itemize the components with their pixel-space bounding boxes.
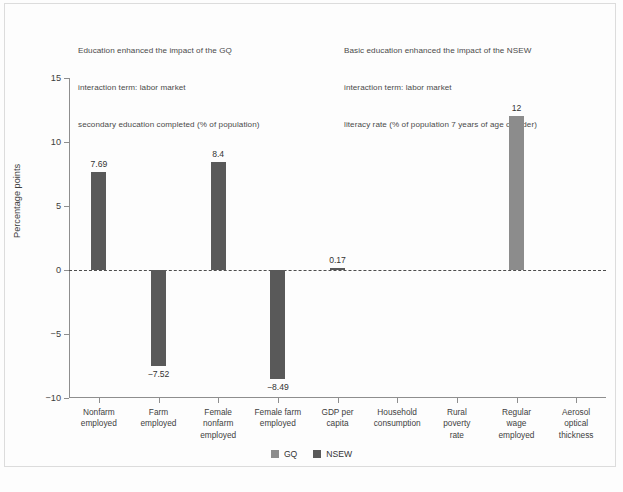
- legend-item-gq[interactable]: GQ: [271, 449, 297, 459]
- x-category-label-line: optical: [545, 418, 607, 429]
- x-category-label-line: consumption: [366, 418, 428, 429]
- y-tick-label: 5: [56, 201, 61, 211]
- x-category-label-line: poverty: [426, 418, 488, 429]
- x-category-label-line: Female: [187, 407, 249, 418]
- y-axis-line: [69, 78, 70, 398]
- annotation-note-nsew-line-1: Basic education enhanced the impact of t…: [344, 45, 537, 57]
- y-tick-label: −5: [51, 329, 61, 339]
- y-tick-label: 10: [51, 137, 61, 147]
- x-category-label-line: Aerosol: [545, 407, 607, 418]
- x-category-label-3: Female farmemployed: [247, 407, 309, 430]
- bar-nsew-1[interactable]: [151, 270, 166, 366]
- x-category-label-line: Farm: [128, 407, 190, 418]
- x-category-label-line: Rural: [426, 407, 488, 418]
- x-category-label-line: GDP per: [307, 407, 369, 418]
- x-tick-mark: [218, 398, 219, 403]
- x-tick-mark: [457, 398, 458, 403]
- x-tick-mark: [397, 398, 398, 403]
- y-axis-label: Percentage points: [12, 164, 22, 238]
- y-tick-mark: [64, 78, 69, 79]
- x-category-label-line: nonfarm: [187, 418, 249, 429]
- x-tick-mark: [278, 398, 279, 403]
- chart-legend: GQNSEW: [0, 449, 623, 459]
- x-category-label-line: employed: [247, 418, 309, 429]
- x-category-label-line: Nonfarm: [68, 407, 130, 418]
- chart-figure: Education enhanced the impact of the GQ …: [0, 0, 623, 492]
- x-category-label-line: thickness: [545, 430, 607, 441]
- legend-swatch-icon: [271, 450, 279, 458]
- legend-label: GQ: [284, 449, 297, 459]
- bar-nsew-2[interactable]: [211, 162, 226, 270]
- x-category-label-0: Nonfarmemployed: [68, 407, 130, 430]
- bar-nsew-0[interactable]: [91, 172, 106, 270]
- x-category-label-line: rate: [426, 430, 488, 441]
- zero-reference-line: [69, 270, 606, 271]
- x-category-label-2: Femalenonfarmemployed: [187, 407, 249, 441]
- x-tick-mark: [99, 398, 100, 403]
- x-category-label-1: Farmemployed: [128, 407, 190, 430]
- bar-value-label: 7.69: [90, 159, 107, 169]
- bar-value-label: 8.4: [212, 149, 224, 159]
- x-category-label-line: Household: [366, 407, 428, 418]
- y-tick-mark: [64, 398, 69, 399]
- x-category-label-6: Ruralpovertyrate: [426, 407, 488, 441]
- x-category-label-line: employed: [68, 418, 130, 429]
- plot-area: 151050−5−10 127.69−7.528.4−8.490.17 Nonf…: [69, 78, 606, 398]
- bar-value-label: −8.49: [267, 382, 289, 392]
- y-tick-label: 15: [51, 73, 61, 83]
- annotation-note-gq-line-1: Education enhanced the impact of the GQ: [78, 45, 260, 57]
- legend-label: NSEW: [326, 449, 352, 459]
- x-category-label-line: employed: [128, 418, 190, 429]
- x-category-label-line: employed: [486, 430, 548, 441]
- bar-value-label: −7.52: [148, 369, 170, 379]
- y-tick-label: −10: [45, 393, 61, 403]
- legend-item-nsew[interactable]: NSEW: [313, 449, 352, 459]
- x-category-label-line: employed: [187, 430, 249, 441]
- bar-nsew-3[interactable]: [270, 270, 285, 379]
- x-category-label-8: Aerosolopticalthickness: [545, 407, 607, 441]
- x-category-label-4: GDP percapita: [307, 407, 369, 430]
- x-category-label-line: wage: [486, 418, 548, 429]
- bar-value-label: 12: [512, 103, 522, 113]
- x-category-label-line: Female farm: [247, 407, 309, 418]
- x-category-label-5: Householdconsumption: [366, 407, 428, 430]
- x-category-label-7: Regularwageemployed: [486, 407, 548, 441]
- y-tick-label: 0: [56, 265, 61, 275]
- bar-value-label: 0.17: [329, 255, 346, 265]
- y-tick-mark: [64, 142, 69, 143]
- legend-swatch-icon: [313, 450, 321, 458]
- x-category-label-line: Regular: [486, 407, 548, 418]
- x-category-label-line: capita: [307, 418, 369, 429]
- x-tick-mark: [338, 398, 339, 403]
- x-tick-mark: [517, 398, 518, 403]
- x-tick-mark: [159, 398, 160, 403]
- bar-gq-7[interactable]: [509, 116, 524, 270]
- y-tick-mark: [64, 334, 69, 335]
- bar-nsew-4[interactable]: [330, 268, 345, 270]
- y-tick-mark: [64, 206, 69, 207]
- x-tick-mark: [576, 398, 577, 403]
